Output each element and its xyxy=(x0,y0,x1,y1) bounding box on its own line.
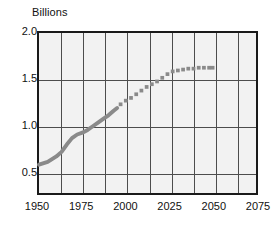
data-point-marker xyxy=(140,89,144,93)
x-tick-label-2000: 2000 xyxy=(113,200,137,212)
data-point-marker xyxy=(119,102,123,106)
data-point-marker xyxy=(129,96,133,100)
data-point-marker xyxy=(197,66,201,70)
x-tick-label-2025: 2025 xyxy=(157,200,181,212)
x-tick-label-2075: 2075 xyxy=(246,200,270,212)
data-point-marker xyxy=(202,66,206,70)
y-tick-label-1-5: 1.5 xyxy=(22,72,37,84)
data-point-marker xyxy=(160,76,164,80)
data-point-marker xyxy=(134,92,138,96)
population-line-chart: Billions 2.01.51.00.5 195019752000202520… xyxy=(0,0,280,230)
data-point-marker xyxy=(176,69,180,73)
data-point-marker xyxy=(166,72,170,76)
data-point-marker xyxy=(181,68,185,72)
y-tick-label-2-0: 2.0 xyxy=(22,25,37,37)
series-markers-projected xyxy=(119,66,215,106)
x-tick-label-1975: 1975 xyxy=(69,200,93,212)
x-tick-label-1950: 1950 xyxy=(25,200,49,212)
series-line-historical xyxy=(39,108,117,165)
data-point-marker xyxy=(145,85,149,89)
data-point-marker xyxy=(207,66,211,70)
data-point-marker xyxy=(192,67,196,71)
x-tick-label-2050: 2050 xyxy=(202,200,226,212)
plot-area xyxy=(37,31,258,195)
data-point-marker xyxy=(211,66,215,70)
data-point-marker xyxy=(124,99,128,103)
data-point-marker xyxy=(150,82,154,86)
y-axis-title: Billions xyxy=(32,6,68,18)
y-tick-label-0-5: 0.5 xyxy=(22,166,37,178)
y-tick-label-1-0: 1.0 xyxy=(22,119,37,131)
data-point-marker xyxy=(186,67,190,71)
data-point-marker xyxy=(155,80,159,84)
data-series-layer xyxy=(39,33,256,193)
data-point-marker xyxy=(171,70,175,74)
